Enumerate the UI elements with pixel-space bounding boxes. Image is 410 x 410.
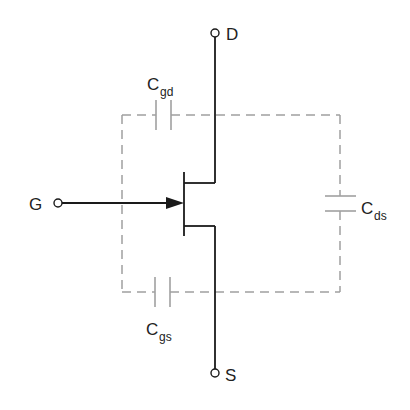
cds-capacitor-symbol <box>325 196 356 211</box>
drain-terminal <box>211 29 219 37</box>
source-terminal <box>211 369 219 377</box>
circuit-svg: D G S C gd C gs C ds <box>0 0 410 410</box>
cgs-label-sub: gs <box>159 330 172 344</box>
cgs-label-main: C <box>146 320 158 339</box>
cds-label-main: C <box>361 199 373 218</box>
cgd-label-main: C <box>147 75 159 94</box>
gate-arrow-icon <box>166 197 184 209</box>
drain-label: D <box>226 25 238 44</box>
cgd-label: C gd <box>147 75 173 99</box>
cds-label: C ds <box>361 199 387 223</box>
jfet-symbol <box>62 37 215 369</box>
cgd-capacitor-symbol <box>156 100 171 130</box>
cgs-capacitor-symbol <box>155 277 170 307</box>
gate-label: G <box>29 195 42 214</box>
cgd-label-sub: gd <box>160 85 173 99</box>
jfet-capacitance-diagram: D G S C gd C gs C ds <box>0 0 410 410</box>
gate-terminal <box>54 199 62 207</box>
cgs-label: C gs <box>146 320 172 344</box>
cds-label-sub: ds <box>374 209 387 223</box>
source-label: S <box>225 366 236 385</box>
